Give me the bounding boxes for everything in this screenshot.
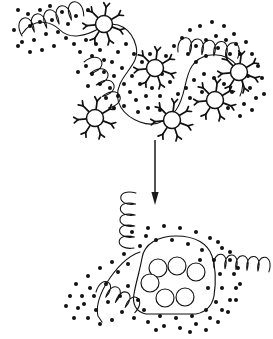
particle-dot-2: [38, 8, 42, 12]
particle-dot-87: [202, 72, 206, 76]
particle-dot-24: [78, 50, 82, 54]
receptor-1-body: [96, 16, 113, 33]
particle-dot-12: [56, 30, 60, 34]
receptor-3-body: [147, 60, 164, 77]
figure-root: [0, 0, 273, 339]
particle-dot-67: [250, 52, 254, 56]
particle-dot-21: [86, 316, 90, 320]
particle-dot-83: [242, 102, 246, 106]
receptor-6-spike-4-fork-1: [222, 59, 227, 60]
particle-dot-54: [126, 262, 130, 266]
particle-dot-57: [132, 52, 136, 56]
particle-dot-72: [214, 34, 218, 38]
particle-dot-82: [254, 96, 258, 100]
particle-dot-60: [154, 328, 158, 332]
particle-dot-32: [110, 60, 114, 64]
particle-dot-65: [232, 32, 236, 36]
particle-dot-13: [66, 22, 70, 26]
particle-dot-45: [214, 300, 218, 304]
particle-dot-4: [194, 230, 198, 234]
particle-dot-5: [208, 236, 212, 240]
receptor-1-spike-5: [105, 7, 106, 15]
particle-dot-50: [142, 308, 146, 312]
particle-dot-0: [16, 8, 20, 12]
bead-3: [187, 263, 205, 281]
particle-dot-94: [238, 114, 242, 118]
particle-dot-6: [220, 246, 224, 250]
receptor-1-spike-4-fork-1: [87, 11, 92, 12]
receptor-5-spike-4-fork-1: [198, 87, 203, 88]
particle-dot-11: [220, 308, 224, 312]
particle-dot-19: [110, 318, 114, 322]
particle-dot-18: [120, 310, 124, 314]
receptor-6-spike-5: [240, 55, 241, 63]
particle-dot-57: [80, 294, 84, 298]
receptor-4-spike-4-fork-1: [155, 107, 160, 108]
receptor-5-spike-5: [216, 83, 217, 91]
particle-dot-17: [52, 44, 56, 48]
particle-dot-18: [40, 48, 44, 52]
particle-dot-17: [132, 316, 136, 320]
particle-dot-28: [84, 64, 88, 68]
particle-dot-19: [28, 50, 32, 54]
particle-dot-59: [172, 44, 176, 48]
diagram-canvas: [0, 0, 273, 339]
particle-dot-22: [84, 38, 88, 42]
particle-dot-21: [72, 42, 76, 46]
particle-dot-3: [48, 4, 52, 8]
particle-dot-34: [124, 42, 128, 46]
particle-dot-8: [232, 272, 236, 276]
particle-dot-41: [200, 248, 204, 252]
particle-dot-91: [188, 96, 192, 100]
particle-dot-79: [228, 52, 232, 56]
particle-dot-20: [16, 44, 20, 48]
particle-dot-39: [108, 86, 112, 90]
receptor-2-spike-5: [96, 101, 97, 109]
particle-dot-2: [162, 224, 166, 228]
particle-dot-34: [106, 300, 110, 304]
particle-dot-64: [222, 24, 226, 28]
particle-dot-88: [192, 78, 196, 82]
particle-dot-44: [220, 286, 224, 290]
particle-dot-0: [130, 230, 134, 234]
bead-5: [156, 289, 174, 307]
receptor-2-spike-3: [78, 119, 86, 120]
particle-dot-71: [224, 38, 228, 42]
particle-dot-15: [162, 324, 166, 328]
particle-dot-46: [134, 98, 138, 102]
particle-dot-54: [136, 110, 140, 114]
particle-dot-40: [186, 242, 190, 246]
particle-dot-13: [194, 322, 198, 326]
particle-dot-58: [64, 304, 68, 308]
particle-dot-16: [146, 320, 150, 324]
particle-dot-81: [248, 86, 252, 90]
particle-dot-12: [208, 316, 212, 320]
particle-dot-65: [234, 298, 238, 302]
particle-dot-40: [122, 82, 126, 86]
particle-dot-25: [86, 274, 90, 278]
particle-dot-93: [226, 106, 230, 110]
bead-4: [141, 274, 159, 292]
receptor-5-spike-3: [198, 101, 206, 102]
particle-dot-6: [50, 18, 54, 22]
particle-dot-7: [228, 258, 232, 262]
particle-dot-56: [88, 286, 92, 290]
particle-dot-66: [238, 282, 242, 286]
particle-dot-1: [146, 226, 150, 230]
particle-dot-61: [188, 28, 192, 32]
particle-dot-20: [98, 322, 102, 326]
particle-dot-35: [112, 74, 116, 78]
particle-dot-85: [222, 82, 226, 86]
particle-dot-1: [26, 12, 30, 16]
receptor-6-spike-3: [222, 73, 230, 74]
particle-dot-51: [158, 94, 162, 98]
particle-dot-61: [188, 330, 192, 334]
particle-dot-43: [218, 272, 222, 276]
particle-dot-16: [64, 36, 68, 40]
particle-dot-36: [126, 284, 130, 288]
receptor-3-spike-5: [156, 51, 157, 59]
particle-dot-62: [204, 328, 208, 332]
particle-dot-10: [228, 298, 232, 302]
particle-dot-26: [98, 266, 102, 270]
bead-2: [168, 257, 186, 275]
